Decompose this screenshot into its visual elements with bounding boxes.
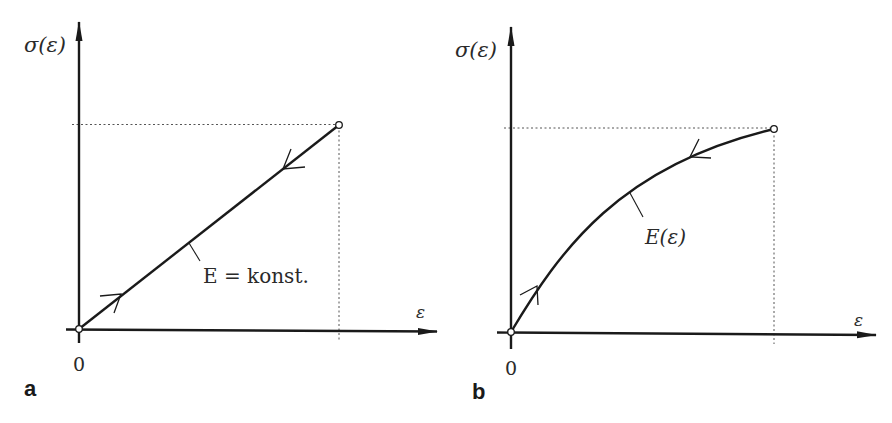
panel-a-curve [79, 125, 339, 329]
panel-a-x-axis-label: ε [416, 302, 425, 322]
panel-a-curve-label: E = konst. [203, 264, 309, 288]
panel-b: σ(ε) ε 0 E(ε) b [455, 27, 876, 404]
panel-b-curve-label: E(ε) [644, 225, 686, 249]
panel-b-label: b [472, 379, 485, 404]
panel-a-y-axis-label: σ(ε) [24, 33, 66, 57]
panel-a-end-point [336, 122, 343, 129]
panel-b-end-point [771, 126, 778, 133]
panel-a-x-axis [66, 330, 437, 332]
panel-a-label-leader [189, 243, 200, 261]
panel-b-label-leader [630, 193, 643, 217]
panel-b-origin-label: 0 [505, 357, 517, 379]
panel-a-origin-point [76, 326, 83, 333]
panel-b-x-axis-label: ε [854, 310, 863, 330]
panel-b-origin-point [508, 329, 515, 336]
panel-b-x-axis [497, 333, 876, 336]
panel-a: σ(ε) ε 0 E = konst. a [24, 22, 437, 401]
panel-a-origin-label: 0 [73, 353, 85, 375]
panel-b-curve [511, 129, 774, 332]
panel-a-label: a [24, 376, 37, 401]
panel-b-y-axis-label: σ(ε) [455, 38, 497, 62]
figure-canvas: σ(ε) ε 0 E = konst. a σ(ε) ε 0 E(ε) b [0, 0, 892, 423]
